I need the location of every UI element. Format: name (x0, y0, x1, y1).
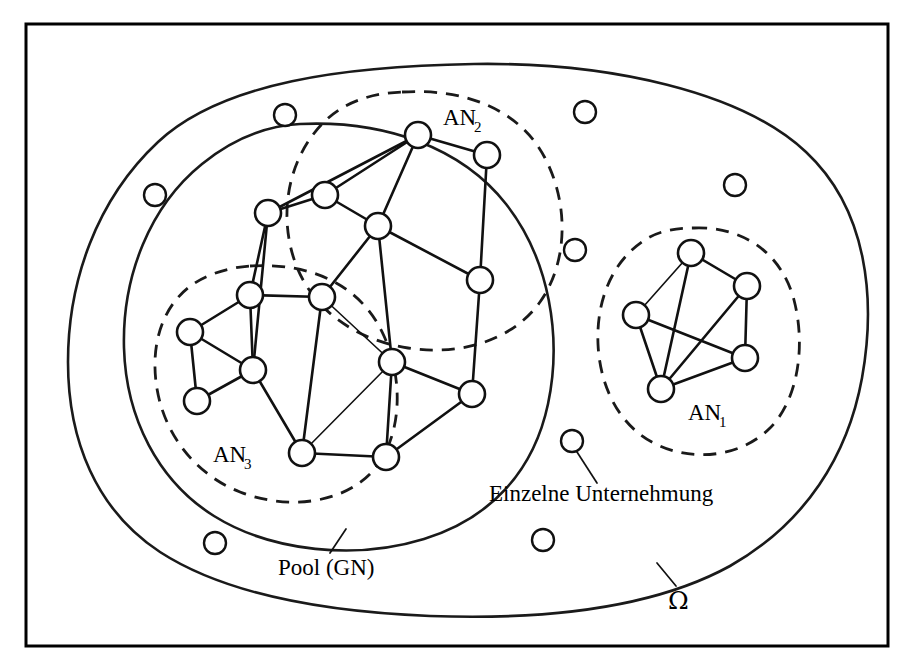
node-a3[interactable] (623, 302, 649, 328)
node-n8[interactable] (309, 284, 335, 310)
label-an2-subscript: 2 (474, 119, 482, 135)
isolated-node-i7[interactable] (204, 532, 226, 554)
isolated-node-i3[interactable] (574, 101, 596, 123)
isolated-node-i8[interactable] (532, 529, 554, 551)
isolated-node-i1[interactable] (274, 104, 296, 126)
node-n12[interactable] (379, 349, 405, 375)
label-an1-subscript: 1 (719, 414, 727, 430)
node-n3[interactable] (405, 122, 431, 148)
isolated-node-i5[interactable] (564, 239, 586, 261)
isolated-node-i6[interactable] (561, 430, 583, 452)
node-a4[interactable] (732, 345, 758, 371)
isolated-node-i2[interactable] (144, 184, 166, 206)
diagram-root: AN 2 AN 3 AN 1 Einzelne Unternehmung Poo… (0, 0, 911, 670)
node-a1[interactable] (678, 240, 704, 266)
label-pool-gn: Pool (GN) (278, 555, 374, 580)
node-n7[interactable] (237, 282, 263, 308)
label-an1: AN (688, 400, 722, 425)
node-n5[interactable] (365, 213, 391, 239)
isolated-node-i4[interactable] (724, 174, 746, 196)
label-einzelne-unternehmung: Einzelne Unternehmung (489, 481, 714, 506)
node-n13[interactable] (459, 381, 485, 407)
node-n2[interactable] (312, 182, 338, 208)
label-an2: AN (443, 105, 477, 130)
node-n14[interactable] (289, 440, 315, 466)
network-diagram-canvas: AN 2 AN 3 AN 1 Einzelne Unternehmung Poo… (0, 0, 911, 670)
label-an3: AN (213, 442, 247, 467)
node-n10[interactable] (240, 357, 266, 383)
node-a2[interactable] (734, 273, 760, 299)
label-an3-subscript: 3 (244, 456, 252, 472)
node-n1[interactable] (255, 200, 281, 226)
node-n6[interactable] (467, 267, 493, 293)
node-n15[interactable] (373, 444, 399, 470)
node-a5[interactable] (648, 376, 674, 402)
node-n9[interactable] (177, 319, 203, 345)
node-n4[interactable] (474, 142, 500, 168)
label-omega: Ω (668, 586, 689, 615)
node-n11[interactable] (184, 388, 210, 414)
